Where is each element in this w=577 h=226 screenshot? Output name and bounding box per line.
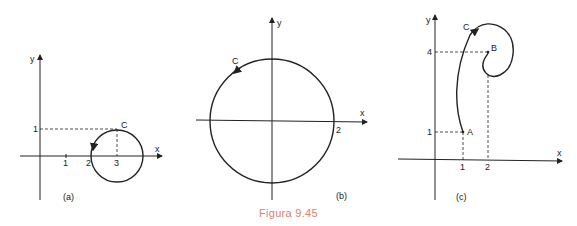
curve-label: C [463, 22, 470, 32]
tick-x-2: 2 [86, 158, 91, 168]
x-axis [196, 120, 367, 122]
tick-y-1: 1 [33, 124, 38, 134]
point-b [487, 51, 490, 54]
figure-canvas: y x C 1 1 2 3 (a) y x C 2 (b) y x [0, 0, 577, 226]
panel-label: (a) [63, 192, 74, 202]
panel-a: y x C 1 1 2 3 (a) [20, 54, 162, 202]
panel-b: y x C 2 (b) [196, 18, 367, 201]
x-axis [398, 159, 562, 161]
point-a-label: A [467, 127, 473, 137]
panel-c: y x C A B 4 1 1 2 (c) [398, 15, 562, 202]
x-axis-label: x [557, 148, 562, 158]
curve-label: C [121, 120, 128, 130]
tick-x-2: 2 [336, 125, 341, 135]
point-a [462, 131, 465, 134]
tick-y-4: 4 [427, 47, 432, 57]
tick-x-2: 2 [485, 162, 490, 172]
point-b-label: B [491, 43, 497, 53]
spiral-curve [457, 24, 514, 132]
curve-label: C [232, 56, 239, 66]
x-axis-label: x [360, 108, 365, 118]
tick-y-1: 1 [427, 127, 432, 137]
tick-x-3: 3 [114, 158, 119, 168]
figure-caption: Figura 9.45 [0, 207, 577, 219]
y-axis-label: y [426, 15, 431, 25]
tick-x-1: 1 [63, 158, 68, 168]
y-axis-label: y [30, 54, 35, 64]
direction-arrow-icon [93, 144, 94, 150]
tick-x-1: 1 [460, 162, 465, 172]
y-axis-label: y [277, 18, 282, 28]
x-axis-label: x [155, 144, 160, 154]
panel-label: (b) [336, 191, 347, 201]
panel-label: (c) [456, 192, 467, 202]
